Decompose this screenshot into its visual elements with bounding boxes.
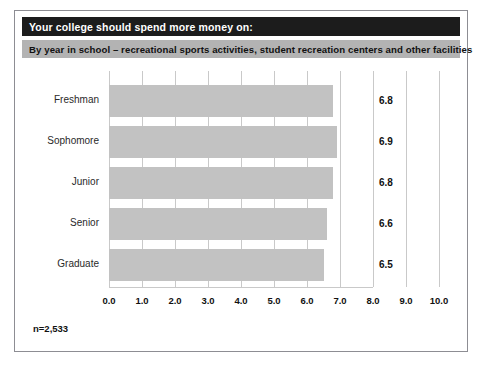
gridline — [439, 71, 440, 287]
value-label: 6.6 — [379, 218, 393, 229]
axis-baseline — [109, 287, 373, 288]
value-label: 6.8 — [379, 177, 393, 188]
sample-size-note: n=2,533 — [33, 323, 68, 334]
gridline — [406, 71, 407, 287]
bar — [109, 167, 333, 199]
bar — [109, 208, 327, 240]
x-axis-tick-label: 10.0 — [419, 295, 459, 306]
figure-frame: Your college should spend more money on:… — [14, 10, 468, 352]
category-label: Junior — [15, 176, 99, 187]
chart-plot-area: Freshman6.8Sophomore6.9Junior6.8Senior6.… — [15, 11, 469, 353]
bar — [109, 126, 337, 158]
category-label: Graduate — [15, 258, 99, 269]
bar — [109, 85, 333, 117]
value-label: 6.8 — [379, 95, 393, 106]
category-label: Freshman — [15, 94, 99, 105]
bar — [109, 249, 324, 281]
value-label: 6.5 — [379, 259, 393, 270]
category-label: Senior — [15, 217, 99, 228]
axis-tick — [340, 71, 341, 287]
value-label: 6.9 — [379, 136, 393, 147]
category-label: Sophomore — [15, 135, 99, 146]
gridline — [373, 71, 374, 287]
